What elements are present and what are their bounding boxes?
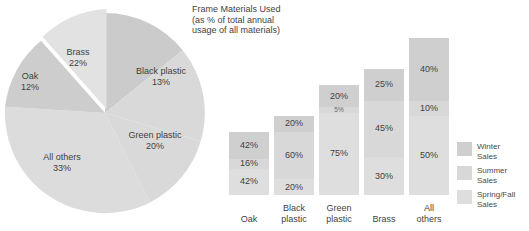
legend-label-spring-fall-sales: Spring/Fall Sales bbox=[477, 190, 515, 209]
bar-stack-oak: 42% 16% 42% bbox=[229, 132, 269, 195]
legend-swatch-spring-fall-sales bbox=[457, 190, 472, 204]
pie-label-oak: Oak 12% bbox=[5, 71, 55, 93]
bar-segment-oak-summer: 16% bbox=[229, 159, 269, 169]
pie-chart: Brass 22% Oak 12% Black plastic 13% Gree… bbox=[0, 0, 215, 225]
stacked-bar-chart: 42% 16% 42% Oak 20% 60% bbox=[225, 0, 455, 231]
legend-item-spring-fall-sales: Spring/Fall Sales bbox=[457, 190, 529, 209]
legend-item-summer-sales: Summer Sales bbox=[457, 166, 529, 185]
chart-legend: Winter Sales Summer Sales Spring/Fall Sa… bbox=[457, 142, 529, 214]
bar-segment-black-plastic-springfall: 20% bbox=[274, 179, 314, 195]
pie-label-brass: Brass 22% bbox=[48, 47, 108, 69]
bar-segment-black-plastic-summer: 60% bbox=[274, 132, 314, 179]
bar-stack-black-plastic: 20% 60% 20% bbox=[274, 116, 314, 195]
legend-swatch-summer-sales bbox=[457, 166, 472, 180]
pie-label-green-plastic: Green plastic 20% bbox=[118, 130, 192, 152]
legend-label-winter-sales: Winter Sales bbox=[477, 142, 500, 161]
bar-segment-brass-summer: 45% bbox=[364, 101, 404, 158]
bar-category-label-all-others: All others bbox=[401, 203, 457, 225]
pie-label-all-others: All others 33% bbox=[30, 152, 94, 174]
bar-segment-all-others-winter: 40% bbox=[409, 38, 449, 101]
legend-label-summer-sales: Summer Sales bbox=[477, 166, 507, 185]
bar-segment-all-others-summer: 10% bbox=[409, 101, 449, 117]
pie-label-black-plastic: Black plastic 13% bbox=[126, 66, 196, 88]
bar-segment-brass-springfall: 30% bbox=[364, 157, 404, 195]
bar-stack-green-plastic: 20% 5% 75% bbox=[319, 85, 359, 195]
bar-segment-black-plastic-winter: 20% bbox=[274, 116, 314, 132]
chart-canvas: Brass 22% Oak 12% Black plastic 13% Gree… bbox=[0, 0, 529, 231]
legend-swatch-winter-sales bbox=[457, 142, 472, 156]
bar-segment-green-plastic-winter: 20% bbox=[319, 85, 359, 107]
pie-chart-svg bbox=[0, 0, 215, 225]
bar-segment-green-plastic-springfall: 75% bbox=[319, 113, 359, 196]
bar-stack-all-others: 40% 10% 50% bbox=[409, 38, 449, 195]
bar-segment-brass-winter: 25% bbox=[364, 69, 404, 101]
bar-segment-all-others-springfall: 50% bbox=[409, 116, 449, 195]
legend-item-winter-sales: Winter Sales bbox=[457, 142, 529, 161]
bar-segment-oak-springfall: 42% bbox=[229, 169, 269, 196]
bar-segment-oak-winter: 42% bbox=[229, 132, 269, 159]
bar-stack-brass: 25% 45% 30% bbox=[364, 69, 404, 195]
